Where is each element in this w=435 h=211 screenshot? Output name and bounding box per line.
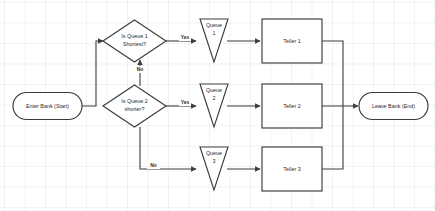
edge-start-to-decision1 — [82, 41, 103, 106]
node-decision2-label-line1: Is Queue 2 — [121, 98, 147, 104]
node-teller2[interactable]: Teller 2 — [262, 84, 322, 128]
node-queue1[interactable]: Queue 1 — [200, 19, 228, 62]
node-queue3[interactable]: Queue 3 — [200, 147, 228, 190]
node-queue1-label-line1: Queue — [206, 22, 222, 28]
node-teller3-label: Teller 3 — [283, 166, 300, 172]
node-decision-queue2-shorter[interactable]: Is Queue 2 shorter? — [103, 85, 166, 127]
node-decision2-label-line2: shorter? — [125, 106, 145, 112]
edge-decision2-no-to-decision1: No — [134, 60, 147, 86]
node-teller1-label: Teller 1 — [283, 38, 300, 44]
node-start-label: Enter Bank (Start) — [26, 103, 69, 109]
edge-label-decision2-yes: Yes — [181, 99, 190, 105]
node-decision1-label-line2: Shortest? — [123, 41, 146, 47]
flowchart-canvas: Yes No Yes No — [0, 0, 435, 211]
node-teller3[interactable]: Teller 3 — [262, 147, 322, 191]
node-queue3-label-line1: Queue — [206, 150, 222, 156]
edge-decision1-yes-to-queue1: Yes — [166, 34, 196, 41]
node-queue2-label-line1: Queue — [206, 87, 222, 93]
node-queue1-label-line2: 1 — [213, 30, 216, 36]
node-end[interactable]: Leave Bank (End) — [359, 93, 428, 120]
flowchart-diagram: Yes No Yes No — [0, 0, 435, 211]
edge-decision2-no-to-queue3: No — [140, 127, 196, 169]
edge-teller3-to-merge — [322, 106, 343, 169]
edge-label-decision2-no-down: No — [150, 162, 157, 168]
node-teller2-label: Teller 2 — [283, 103, 300, 109]
edge-decision2-yes-to-queue2: Yes — [166, 99, 196, 106]
edge-teller1-to-merge — [322, 41, 343, 106]
edge-label-decision2-no-up: No — [137, 66, 144, 72]
node-teller1[interactable]: Teller 1 — [262, 19, 322, 63]
node-queue2-label-line2: 2 — [213, 95, 216, 101]
edge-label-decision1-yes: Yes — [181, 34, 190, 40]
node-queue2[interactable]: Queue 2 — [200, 84, 228, 127]
node-decision-queue1-shortest[interactable]: Is Queue 1 Shortest? — [103, 20, 166, 62]
node-queue3-label-line2: 3 — [213, 158, 216, 164]
node-decision1-label-line1: Is Queue 1 — [121, 33, 147, 39]
node-end-label: Leave Bank (End) — [372, 103, 415, 109]
node-start[interactable]: Enter Bank (Start) — [13, 93, 82, 120]
